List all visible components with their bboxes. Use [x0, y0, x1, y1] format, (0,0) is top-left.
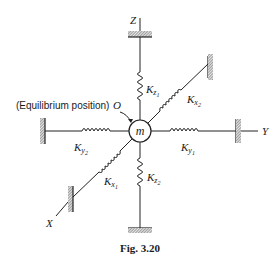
equilibrium-label: (Equilibrium position)	[16, 100, 109, 111]
axis-y-label: Y	[262, 125, 270, 137]
svg-text:Kz2: Kz2	[146, 171, 160, 186]
spring-label-ky1: Ky1	[180, 141, 195, 156]
svg-text:Kz1: Kz1	[145, 83, 159, 98]
mass-label: m	[136, 124, 145, 138]
origin-label: O	[113, 99, 121, 111]
svg-text:Ky2: Ky2	[73, 141, 88, 156]
z-axis-top	[128, 18, 152, 120]
spring-label-kz1: Kz1	[145, 83, 159, 98]
svg-text:Ky1: Ky1	[180, 141, 195, 156]
spring-label-kx1: Kx1	[103, 175, 118, 190]
spring-label-kz2: Kz2	[146, 171, 160, 186]
y-axis-right	[151, 119, 258, 143]
svg-text:Kx2: Kx2	[186, 93, 201, 108]
mass: m	[129, 120, 151, 142]
figure-caption: Fig. 3.20	[120, 242, 161, 254]
axis-x-label: X	[45, 217, 54, 229]
y-axis-left	[40, 118, 129, 144]
axis-z-label: Z	[130, 14, 137, 26]
z-axis-bottom	[128, 142, 152, 233]
spring-label-ky2: Ky2	[73, 141, 88, 156]
x-axis-lower	[56, 139, 132, 216]
spring-label-kx2: Kx2	[186, 93, 201, 108]
x-axis-upper	[148, 54, 213, 123]
svg-text:Kx1: Kx1	[103, 175, 118, 190]
diagram-svg: m (Equilibrium position) O Z Y X Kz1 Kz2…	[0, 0, 280, 259]
spring-mass-diagram: m (Equilibrium position) O Z Y X Kz1 Kz2…	[0, 0, 280, 259]
